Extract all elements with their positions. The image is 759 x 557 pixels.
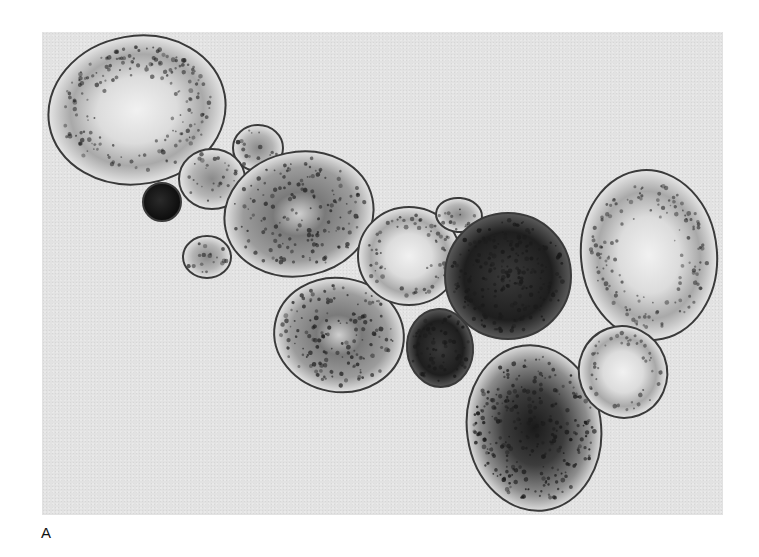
cell-large-right xyxy=(574,164,723,345)
panel-label: A xyxy=(41,524,51,541)
micrograph-figure xyxy=(42,32,723,515)
cell-small-left xyxy=(183,236,231,278)
cell-cluster-illustration xyxy=(42,32,723,515)
cell-large-dark-center xyxy=(445,213,571,339)
cell-tiny-dark xyxy=(143,183,181,221)
